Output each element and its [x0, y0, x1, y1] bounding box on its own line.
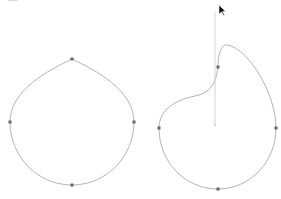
- node-right[interactable]: [275, 127, 278, 130]
- left-shape[interactable]: [9, 58, 136, 187]
- vector-canvas[interactable]: [0, 0, 281, 199]
- node-bottom[interactable]: [71, 184, 74, 187]
- node-bottom[interactable]: [217, 188, 220, 191]
- node-top-selected[interactable]: [217, 66, 220, 69]
- handle-end-point[interactable]: [214, 124, 216, 126]
- arrow-cursor-icon: [219, 5, 226, 16]
- node-left[interactable]: [9, 121, 12, 124]
- node-top[interactable]: [71, 58, 74, 61]
- right-shape[interactable]: [158, 12, 278, 191]
- node-left[interactable]: [158, 127, 161, 130]
- node-right[interactable]: [133, 121, 136, 124]
